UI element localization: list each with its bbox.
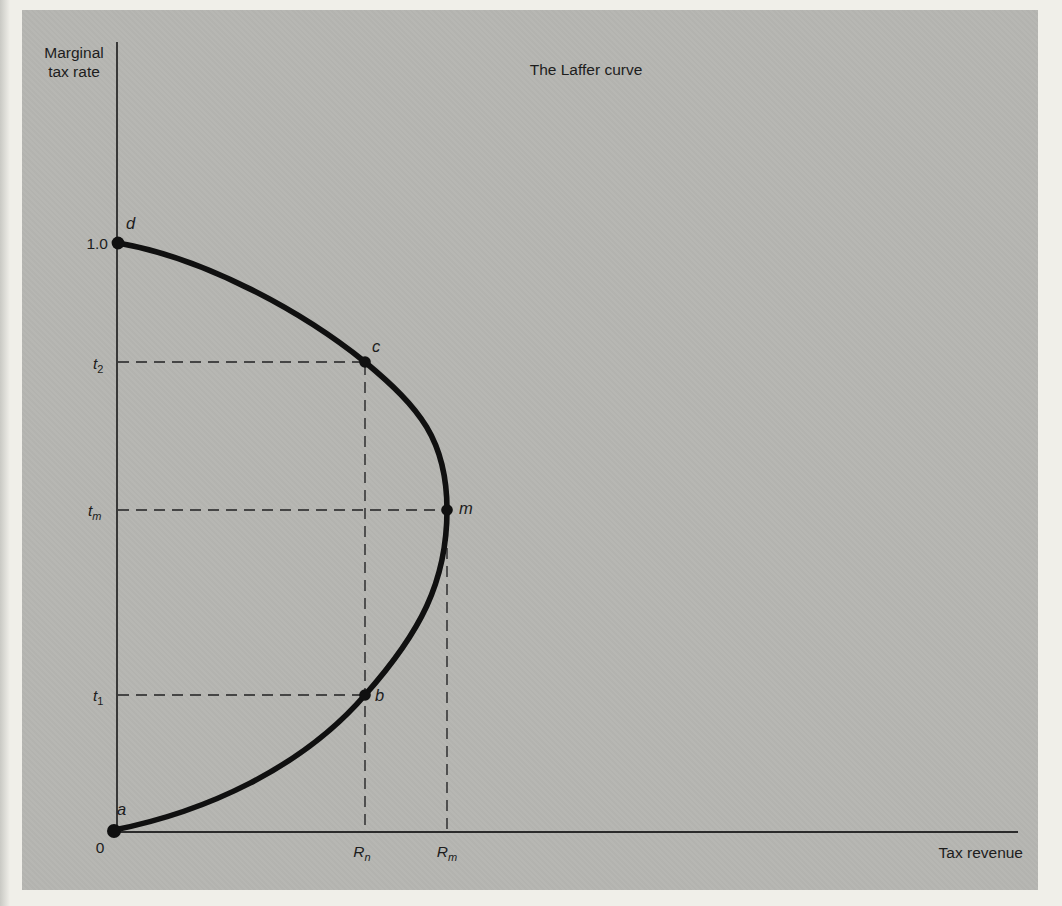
laffer-curve <box>114 243 447 830</box>
x-tick-Rn-sub: n <box>365 851 371 863</box>
x-axis-label: Tax revenue <box>903 843 1023 862</box>
figure-page: The Laffer curve Marginal tax rate Tax r… <box>0 0 1062 906</box>
laffer-chart <box>0 0 1062 906</box>
point-label-d: d <box>126 214 135 233</box>
point-dot-a <box>107 824 121 838</box>
point-label-m: m <box>459 499 473 518</box>
y-tick-1.0: 1.0 <box>64 234 108 253</box>
point-label-c: c <box>372 337 380 356</box>
x-tick-Rm-base: R <box>437 843 448 860</box>
point-dot-m <box>441 504 453 516</box>
dashed-guides <box>118 362 447 830</box>
point-label-b: b <box>375 686 384 705</box>
x-tick-Rm: Rm <box>429 842 465 861</box>
y-tick-t2-sub: 2 <box>97 363 103 375</box>
origin-label: 0 <box>88 838 112 857</box>
x-tick-Rm-sub: m <box>448 851 457 863</box>
y-tick-t2: t2 <box>93 354 103 373</box>
point-dot-b <box>359 689 371 701</box>
y-tick-tm: tm <box>88 501 101 520</box>
y-axis-label-line2: tax rate <box>36 62 112 81</box>
point-label-a: a <box>117 800 126 819</box>
y-tick-t1: t1 <box>93 686 103 705</box>
y-axis-label: Marginal tax rate <box>36 43 112 81</box>
y-axis-label-line1: Marginal <box>36 43 112 62</box>
x-tick-Rn-base: R <box>353 843 364 860</box>
y-tick-tm-sub: m <box>92 510 101 522</box>
point-dot-d <box>112 237 125 250</box>
x-tick-Rn: Rn <box>344 842 380 861</box>
point-dot-c <box>359 356 371 368</box>
y-tick-t1-sub: 1 <box>97 695 103 707</box>
chart-title: The Laffer curve <box>460 60 712 79</box>
